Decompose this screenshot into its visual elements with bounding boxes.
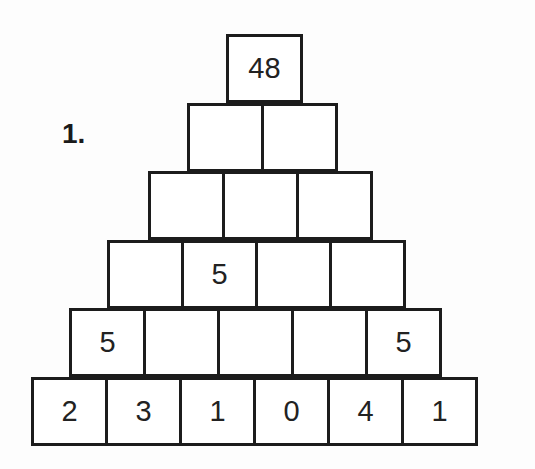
brick[interactable] (148, 171, 225, 240)
brick[interactable] (261, 103, 338, 172)
brick[interactable]: 5 (365, 308, 442, 377)
brick[interactable]: 2 (31, 377, 108, 446)
brick[interactable] (107, 240, 184, 309)
brick[interactable] (291, 308, 368, 377)
brick[interactable] (296, 171, 373, 240)
brick[interactable] (255, 240, 332, 309)
brick[interactable]: 1 (179, 377, 256, 446)
brick[interactable]: 5 (181, 240, 258, 309)
pyramid-row-5: 5 5 (69, 308, 442, 377)
brick[interactable] (222, 171, 299, 240)
brick[interactable]: 48 (226, 34, 303, 103)
pyramid-row-4: 5 (107, 240, 406, 309)
pyramid-row-6: 2 3 1 0 4 1 (31, 377, 478, 446)
brick[interactable]: 3 (105, 377, 182, 446)
brick[interactable] (187, 103, 264, 172)
brick[interactable]: 1 (401, 377, 478, 446)
pyramid-row-1: 48 (226, 34, 303, 103)
brick[interactable]: 5 (69, 308, 146, 377)
brick[interactable] (143, 308, 220, 377)
brick[interactable]: 0 (253, 377, 330, 446)
pyramid-row-3 (148, 171, 373, 240)
number-pyramid: 48 5 5 5 2 3 1 0 4 1 (0, 0, 535, 469)
brick[interactable]: 4 (327, 377, 404, 446)
brick[interactable] (329, 240, 406, 309)
brick[interactable] (217, 308, 294, 377)
pyramid-row-2 (187, 103, 338, 172)
